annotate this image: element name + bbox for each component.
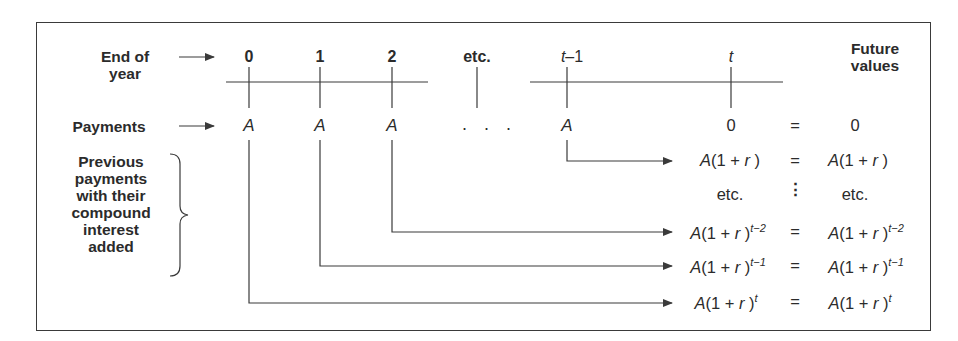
fv-left-t: A(1 + r )t bbox=[694, 292, 757, 313]
payment-year-1: A bbox=[314, 116, 325, 136]
arrow-t-minus-1 bbox=[567, 140, 672, 161]
previous-payments-label: Previous payments with their compound in… bbox=[55, 153, 167, 255]
fv-left-t-minus-2: A(1 + r )t−2 bbox=[690, 222, 766, 243]
payment-year-t-minus-1: A bbox=[561, 116, 572, 136]
fv-right-etc: etc. bbox=[842, 185, 869, 204]
payment-ellipsis: . . . bbox=[462, 114, 517, 135]
end-of-year-label: End of year bbox=[70, 48, 180, 82]
fv-eq-1: = bbox=[790, 151, 800, 170]
fv-right-t-minus-2: A(1 + r )t−2 bbox=[828, 222, 904, 243]
payments-label: Payments bbox=[54, 118, 164, 135]
fv-right-t-minus-1: A(1 + r )t−1 bbox=[828, 256, 904, 277]
brace-icon bbox=[170, 154, 188, 276]
tick-label-t: t bbox=[729, 48, 733, 66]
tick-label-1: 1 bbox=[316, 48, 325, 66]
fv-eq-3: = bbox=[790, 222, 800, 241]
tick-label-t-minus-1: t–1 bbox=[561, 48, 583, 66]
fv-left-0: 0 bbox=[726, 116, 735, 135]
tick-label-2: 2 bbox=[388, 48, 397, 66]
fv-right-1: A(1 + r ) bbox=[828, 151, 888, 170]
vertical-ellipsis: ⋮ bbox=[787, 180, 804, 199]
fv-eq-4: = bbox=[790, 256, 800, 275]
fv-right-t: A(1 + r )t bbox=[828, 292, 891, 313]
tick-label-0: 0 bbox=[245, 48, 254, 66]
fv-left-1: AA(1 + (1 + r ) bbox=[700, 151, 760, 170]
future-values-label: Future values bbox=[830, 40, 920, 74]
fv-eq-0: = bbox=[790, 116, 800, 135]
fv-left-etc: etc. bbox=[717, 185, 744, 204]
payment-year-0: A bbox=[243, 116, 254, 136]
fv-left-t-minus-1: A(1 + r )t−1 bbox=[690, 256, 766, 277]
payment-year-2: A bbox=[386, 116, 397, 136]
arrow-year-2 bbox=[392, 140, 672, 232]
arrow-year-0 bbox=[249, 140, 672, 303]
tick-label-etc: etc. bbox=[463, 48, 491, 66]
arrow-year-1 bbox=[320, 140, 672, 266]
fv-eq-5: = bbox=[790, 292, 800, 311]
fv-right-0: 0 bbox=[850, 116, 859, 135]
